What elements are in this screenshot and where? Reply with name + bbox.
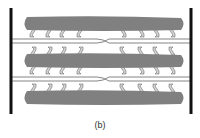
crossbridge	[169, 84, 175, 92]
thick-filament-middle	[25, 53, 184, 68]
crossbridge	[169, 47, 175, 55]
crossbridge	[30, 66, 36, 74]
figure-caption: (b)	[0, 120, 200, 130]
crossbridge	[153, 84, 159, 92]
sarcomere-diagram	[0, 0, 200, 138]
crossbridge	[30, 47, 36, 55]
crossbridge	[30, 29, 36, 37]
left-z-line	[10, 8, 13, 114]
thick-filament-bottom	[25, 90, 184, 105]
crossbridge	[153, 47, 159, 55]
right-z-line	[190, 8, 193, 114]
thick-filament-top	[25, 16, 184, 31]
crossbridge	[30, 84, 36, 92]
